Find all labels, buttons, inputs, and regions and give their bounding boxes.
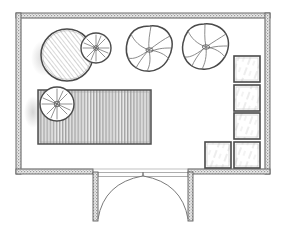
floor-plan-canvas <box>0 0 284 239</box>
tree-canopy-center <box>126 26 172 71</box>
seat-square-4 <box>234 142 260 168</box>
door-leaf-right <box>143 172 144 176</box>
door-jamb-right <box>188 172 193 221</box>
door-jamb-left <box>93 172 98 221</box>
seat-square-3 <box>234 113 260 139</box>
seat-square-2 <box>234 85 260 111</box>
potted-plant-upper <box>81 33 111 63</box>
wall-left <box>16 13 21 174</box>
tree-canopy-right <box>183 24 229 69</box>
seat-square-5 <box>205 142 231 168</box>
entrance-double-door <box>93 172 193 221</box>
seating-squares <box>205 56 260 168</box>
potted-plant-upper-burst <box>83 35 109 61</box>
floor-plan-drawing <box>0 0 284 239</box>
wall-right <box>265 13 270 174</box>
door-swing-arc-left <box>98 176 143 219</box>
wall-bottom-left <box>16 169 93 174</box>
seat-square-1 <box>234 56 260 82</box>
wall-top <box>16 13 270 18</box>
potted-plant-lower <box>40 87 74 121</box>
wall-bottom-right <box>188 169 270 174</box>
door-swing-arc-right <box>144 176 189 219</box>
